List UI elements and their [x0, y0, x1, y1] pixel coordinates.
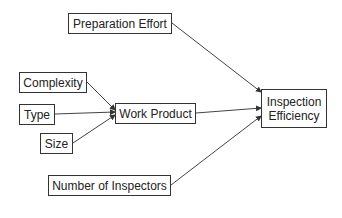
edge-work-product-to-inspection-efficiency: [196, 108, 261, 113]
edge-number-of-inspectors-to-inspection-efficiency: [171, 116, 261, 185]
node-label-line2: Efficiency: [268, 109, 319, 123]
node-work-product: Work Product: [115, 103, 196, 124]
node-type: Type: [19, 104, 55, 125]
node-label: Type: [24, 108, 50, 122]
node-inspection-efficiency: Inspection Efficiency: [261, 89, 327, 128]
node-label: Work Product: [119, 107, 191, 121]
edge-type-to-work-product: [55, 112, 115, 114]
node-size: Size: [40, 133, 73, 154]
node-preparation-effort: Preparation Effort: [68, 13, 172, 34]
node-label: Complexity: [23, 76, 82, 90]
edge-size-to-work-product: [73, 115, 115, 143]
node-label: Number of Inspectors: [52, 179, 167, 193]
node-label: Size: [45, 137, 68, 151]
node-label: Preparation Effort: [73, 17, 167, 31]
edge-complexity-to-work-product: [87, 82, 115, 110]
edge-preparation-effort-to-inspection-efficiency: [172, 23, 261, 92]
node-number-of-inspectors: Number of Inspectors: [48, 175, 171, 196]
node-label-line1: Inspection: [267, 95, 322, 109]
node-complexity: Complexity: [19, 72, 87, 93]
